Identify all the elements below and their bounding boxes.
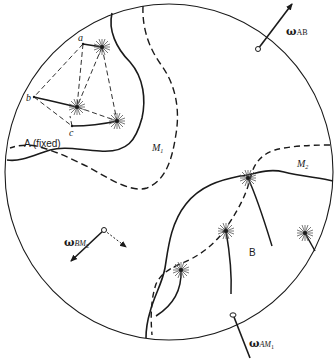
label-mobile-m2: M2 (297, 159, 308, 170)
label-body-a-fixed: A (fixed) (24, 139, 61, 149)
body-b-boundary (146, 171, 333, 338)
label-omega-bm2: ωBM2 (64, 233, 89, 249)
label-omega-ab: ωAB (286, 22, 308, 38)
point-a-dot (82, 43, 84, 45)
label-mobile-m1: M1 (152, 143, 163, 154)
mobile-m2-boundary (151, 145, 330, 335)
star-markers (69, 39, 313, 278)
label-point-a: a (78, 33, 83, 43)
label-body-b: B (249, 248, 256, 258)
point-b-dot (33, 96, 35, 98)
label-point-c: c (69, 128, 73, 138)
mechanism-diagram (0, 0, 336, 360)
label-omega-am1: ωAM1 (249, 334, 274, 350)
triangle-links (34, 44, 117, 126)
body-b-trails (156, 178, 315, 316)
label-point-b: b (26, 93, 31, 103)
